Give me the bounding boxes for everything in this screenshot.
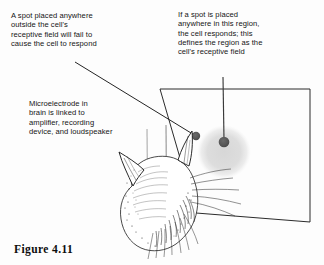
annotation-microelectrode: Microelectrode in brain is linked to amp…: [29, 99, 171, 136]
spot-inside-field: [219, 137, 230, 148]
annotation-outside-receptive-field: A spot placed anywhere outside the cell'…: [11, 11, 151, 48]
figure-number-label: Figure 4.11: [14, 243, 73, 255]
annotation-inside-receptive-field: If a spot is placed anywhere in this reg…: [178, 10, 320, 56]
figure-container: A spot placed anywhere outside the cell'…: [0, 0, 324, 265]
spot-outside-field: [192, 132, 200, 140]
